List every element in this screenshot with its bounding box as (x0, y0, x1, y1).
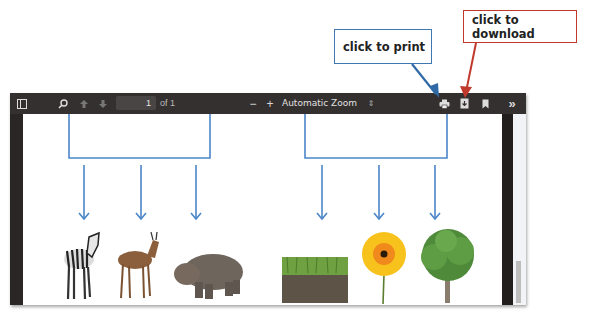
print-button[interactable] (436, 93, 452, 114)
download-callout-text: click to download (472, 13, 576, 41)
tools-more-button[interactable]: » (504, 93, 520, 114)
select-arrows-icon: ⇕ (368, 99, 375, 108)
bookmark-icon (482, 99, 489, 109)
scrollbar-thumb[interactable] (516, 261, 521, 303)
tree-image (416, 227, 480, 303)
search-icon (58, 99, 68, 109)
download-icon (460, 98, 469, 109)
page-number-input[interactable]: 1 (116, 96, 156, 110)
print-callout: click to print (334, 29, 432, 64)
download-callout: click to download (463, 10, 577, 43)
pdf-viewer: 1 of 1 − + Automatic Zoom ⇕ » (10, 93, 526, 305)
next-page-button[interactable] (95, 93, 111, 114)
gazelle-image (115, 232, 161, 302)
zebra-image (59, 229, 103, 303)
sidebar-toggle-button[interactable] (14, 93, 30, 114)
search-button[interactable] (55, 93, 71, 114)
download-button[interactable] (457, 93, 471, 114)
hippo-image (173, 246, 245, 302)
bookmark-button[interactable] (478, 93, 492, 114)
arrow-down-icon (98, 99, 108, 109)
viewer-toolbar: 1 of 1 − + Automatic Zoom ⇕ » (10, 93, 526, 114)
zoom-out-button[interactable]: − (246, 93, 260, 114)
zoom-select[interactable]: Automatic Zoom ⇕ (282, 96, 375, 110)
flower-image (361, 232, 407, 304)
viewer-gutter (502, 114, 513, 305)
print-callout-text: click to print (343, 40, 425, 54)
arrow-up-icon (79, 99, 89, 109)
grass-image (282, 257, 348, 303)
printer-icon (439, 99, 450, 109)
zoom-in-button[interactable]: + (263, 93, 277, 114)
page-count: of 1 (160, 93, 175, 114)
pdf-page (23, 114, 502, 305)
sidebar-icon (17, 99, 27, 109)
zoom-level: Automatic Zoom (282, 98, 357, 108)
previous-page-button[interactable] (76, 93, 92, 114)
